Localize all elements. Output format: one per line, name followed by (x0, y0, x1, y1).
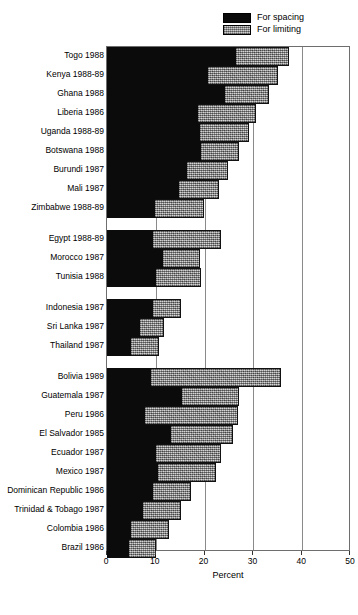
bar-segment-for-spacing (107, 425, 171, 444)
bar-row (107, 318, 164, 337)
bar-segment-for-limiting (182, 387, 239, 406)
bar-row (107, 463, 216, 482)
bar-segment-for-spacing (107, 85, 225, 104)
chart-container: For spacing For limiting Togo 1988Kenya … (0, 0, 358, 615)
category-label: Guatemala 1987 (0, 386, 104, 405)
bar-row (107, 520, 169, 539)
x-axis-title: Percent (106, 570, 350, 580)
bar-row (107, 180, 219, 199)
plot-area (106, 46, 350, 551)
legend-label-for-spacing: For spacing (257, 12, 304, 23)
bar-rows (107, 47, 349, 550)
bar-segment-for-spacing (107, 368, 151, 387)
category-label: Liberia 1986 (0, 103, 104, 122)
x-tick-label-40: 40 (296, 556, 305, 566)
bar-segment-for-spacing (107, 268, 156, 287)
category-label: Ghana 1988 (0, 84, 104, 103)
category-label: Uganda 1988-89 (0, 122, 104, 141)
bar-segment-for-spacing (107, 66, 208, 85)
category-label: Burundi 1987 (0, 160, 104, 179)
bar-row (107, 85, 269, 104)
category-label: Trinidad & Tobago 1987 (0, 500, 104, 519)
bar-segment-for-spacing (107, 520, 131, 539)
x-tick-label-50: 50 (345, 556, 354, 566)
category-label: Bolivia 1989 (0, 367, 104, 386)
bar-segment-for-limiting (187, 161, 228, 180)
x-tick-20 (204, 551, 205, 555)
bar-segment-for-limiting (225, 85, 269, 104)
bar-segment-for-spacing (107, 387, 182, 406)
bar-row (107, 406, 238, 425)
category-label: Sri Lanka 1987 (0, 317, 104, 336)
bar-segment-for-limiting (156, 268, 201, 287)
bar-segment-for-limiting (155, 199, 204, 218)
legend-item-for-spacing: For spacing (223, 12, 353, 23)
bar-segment-for-limiting (153, 299, 181, 318)
bar-segment-for-limiting (153, 230, 221, 249)
bar-row (107, 199, 204, 218)
bar-row (107, 47, 289, 66)
x-tick-10 (155, 551, 156, 555)
bar-row (107, 299, 181, 318)
legend-swatch-for-limiting (223, 25, 251, 35)
bar-segment-for-limiting (158, 463, 216, 482)
bar-segment-for-limiting (145, 406, 238, 425)
bar-segment-for-limiting (163, 249, 200, 268)
category-label: Morocco 1987 (0, 248, 104, 267)
bar-row (107, 249, 200, 268)
bar-segment-for-spacing (107, 47, 236, 66)
bar-segment-for-limiting (151, 368, 281, 387)
bar-segment-for-limiting (131, 337, 159, 356)
bar-segment-for-spacing (107, 142, 201, 161)
legend-swatch-for-spacing (223, 13, 251, 23)
bar-segment-for-spacing (107, 463, 158, 482)
bar-row (107, 425, 233, 444)
category-label: Egypt 1988-89 (0, 229, 104, 248)
bar-segment-for-limiting (208, 66, 278, 85)
bar-segment-for-spacing (107, 249, 163, 268)
category-label: Brazil 1986 (0, 538, 104, 557)
bar-segment-for-limiting (201, 142, 239, 161)
legend-label-for-limiting: For limiting (257, 24, 301, 35)
bar-segment-for-limiting (171, 425, 233, 444)
bar-segment-for-spacing (107, 482, 153, 501)
category-label: Thailand 1987 (0, 336, 104, 355)
category-label: Tunisia 1988 (0, 267, 104, 286)
x-tick-0 (106, 551, 107, 555)
category-label: Togo 1988 (0, 46, 104, 65)
bar-segment-for-limiting (179, 180, 219, 199)
bar-segment-for-limiting (131, 520, 169, 539)
bar-segment-for-limiting (200, 123, 249, 142)
category-label: Mali 1987 (0, 179, 104, 198)
category-label: Mexico 1987 (0, 462, 104, 481)
bar-segment-for-spacing (107, 501, 143, 520)
legend-item-for-limiting: For limiting (223, 24, 353, 35)
bar-segment-for-limiting (156, 444, 221, 463)
category-label: Colombia 1986 (0, 519, 104, 538)
bar-row (107, 368, 281, 387)
category-label: Kenya 1988-89 (0, 65, 104, 84)
bar-row (107, 66, 278, 85)
bar-segment-for-limiting (140, 318, 164, 337)
x-tick-label-30: 30 (248, 556, 257, 566)
chart-legend: For spacing For limiting (223, 12, 353, 36)
bar-segment-for-spacing (107, 318, 140, 337)
category-label: El Salvador 1985 (0, 424, 104, 443)
bar-row (107, 123, 249, 142)
x-tick-label-20: 20 (199, 556, 208, 566)
bar-row (107, 104, 256, 123)
x-tick-40 (301, 551, 302, 555)
bar-segment-for-spacing (107, 406, 145, 425)
category-label-axis: Togo 1988Kenya 1988-89Ghana 1988Liberia … (0, 46, 104, 551)
bar-row (107, 482, 191, 501)
category-label: Indonesia 1987 (0, 298, 104, 317)
bar-row (107, 501, 181, 520)
category-label: Zimbabwe 1988-89 (0, 198, 104, 217)
x-tick-50 (349, 551, 350, 555)
category-label: Dominican Republic 1986 (0, 481, 104, 500)
x-tick-30 (252, 551, 253, 555)
bar-row (107, 387, 239, 406)
bar-segment-for-limiting (143, 501, 181, 520)
bar-segment-for-spacing (107, 299, 153, 318)
bar-segment-for-spacing (107, 180, 179, 199)
